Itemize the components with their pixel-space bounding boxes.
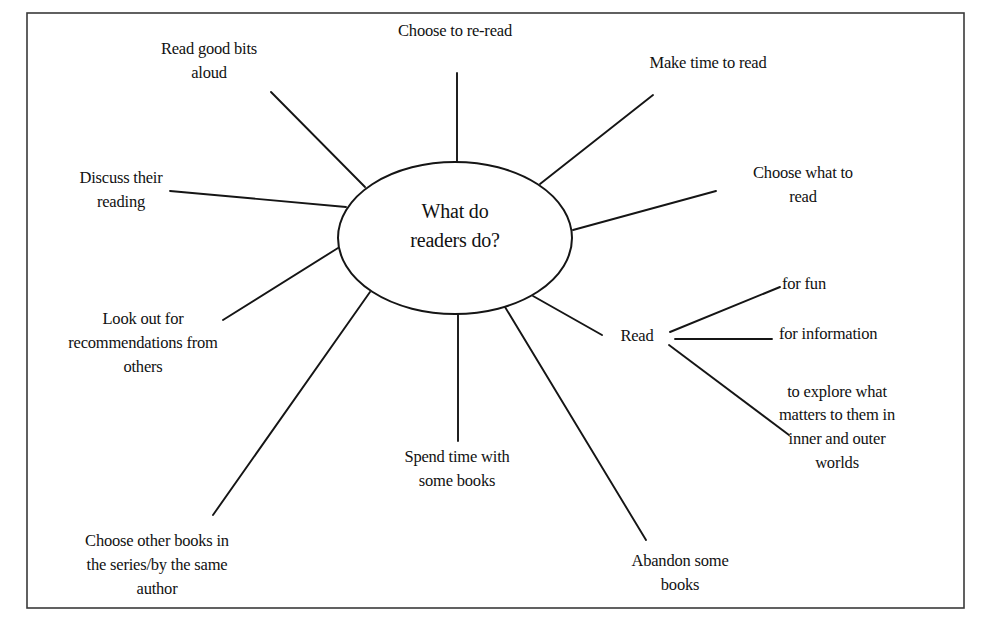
node-recommendations: Look out for recommendations from others xyxy=(68,309,218,376)
spider-diagram: What do readers do? Choose to re-read Ma… xyxy=(0,0,981,630)
spoke-other-books xyxy=(213,292,370,515)
spoke-read-fun xyxy=(670,287,780,332)
node-read-fun-text: for fun xyxy=(782,274,826,293)
central-question-line-1: What do xyxy=(422,200,489,222)
node-abandon-line-2: books xyxy=(661,575,699,594)
spoke-read xyxy=(533,296,602,335)
node-read-aloud-line-2: aloud xyxy=(191,63,228,82)
node-read-explore-line-2: matters to them in xyxy=(779,405,895,424)
node-recommendations-line-3: others xyxy=(123,357,162,376)
node-re-read-text: Choose to re-read xyxy=(398,21,513,40)
node-spend-time-line-1: Spend time with xyxy=(404,447,510,466)
spoke-choose-what xyxy=(573,191,716,230)
node-abandon-line-1: Abandon some xyxy=(631,551,728,570)
node-other-books-line-2: the series/by the same xyxy=(87,555,228,574)
node-recommendations-line-1: Look out for xyxy=(102,309,184,328)
node-other-books-line-3: author xyxy=(137,579,179,598)
node-choose-what-line-1: Choose what to xyxy=(753,163,853,182)
node-recommendations-line-2: recommendations from xyxy=(68,333,218,352)
spoke-make-time xyxy=(540,95,653,184)
node-re-read: Choose to re-read xyxy=(398,21,513,40)
node-read-explore-line-3: inner and outer xyxy=(789,429,887,448)
node-read-aloud-line-1: Read good bits xyxy=(161,39,257,58)
spoke-recommendations xyxy=(223,248,338,320)
node-read-explore-line-4: worlds xyxy=(815,453,859,472)
node-make-time-text: Make time to read xyxy=(649,53,767,72)
node-other-books: Choose other books in the series/by the … xyxy=(85,531,229,598)
node-read-information-text: for information xyxy=(779,324,877,343)
diagram-canvas: What do readers do? Choose to re-read Ma… xyxy=(0,0,981,630)
spoke-discuss xyxy=(170,191,346,207)
central-question-line-2: readers do? xyxy=(410,229,500,251)
node-make-time: Make time to read xyxy=(649,53,767,72)
node-read-text: Read xyxy=(620,326,654,345)
node-discuss: Discuss their reading xyxy=(79,168,163,211)
node-discuss-line-2: reading xyxy=(97,192,145,211)
node-abandon: Abandon some books xyxy=(631,551,728,594)
spoke-read-aloud xyxy=(271,92,365,187)
spoke-read-explore xyxy=(669,345,789,435)
node-read-aloud: Read good bits aloud xyxy=(161,39,257,82)
node-choose-what-line-2: read xyxy=(789,187,818,206)
node-discuss-line-1: Discuss their xyxy=(79,168,163,187)
node-read-explore-line-1: to explore what xyxy=(787,382,887,401)
node-other-books-line-1: Choose other books in xyxy=(85,531,229,550)
node-choose-what: Choose what to read xyxy=(753,163,853,206)
node-read: Read for fun for information to explore … xyxy=(620,274,895,472)
node-spend-time: Spend time with some books xyxy=(404,447,510,490)
node-spend-time-line-2: some books xyxy=(419,471,495,490)
